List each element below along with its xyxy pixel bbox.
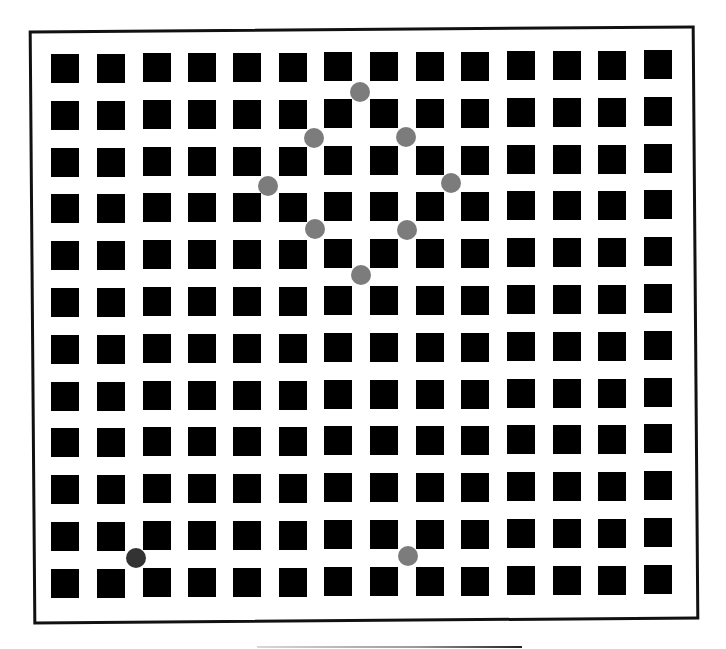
grid-square: [644, 237, 672, 266]
grid-square: [553, 566, 581, 595]
grid-square: [461, 99, 489, 128]
grid-square: [51, 288, 79, 317]
grid-square: [461, 52, 489, 81]
grid-square: [507, 98, 535, 127]
grid-square: [279, 100, 307, 129]
grid-square: [97, 335, 125, 364]
grid-square: [370, 567, 398, 596]
grid-square: [143, 147, 171, 176]
grid-square: [324, 192, 352, 221]
grid-square: [461, 426, 489, 455]
grid-square: [143, 287, 171, 316]
grid-square: [279, 474, 307, 503]
grid-square: [51, 101, 79, 130]
grid-square: [188, 568, 216, 597]
grid-square: [416, 99, 444, 128]
grid-square: [461, 333, 489, 362]
grid-square: [233, 147, 261, 176]
grid-square: [51, 522, 79, 551]
grid-square: [279, 381, 307, 410]
grid-square: [279, 53, 307, 82]
grid-square: [233, 53, 261, 82]
grid-square: [370, 99, 398, 128]
grid-square: [324, 473, 352, 502]
grid-square: [279, 147, 307, 176]
grid-square: [188, 287, 216, 316]
grid-square: [279, 287, 307, 316]
grid-square: [324, 520, 352, 549]
grid-square: [553, 191, 581, 220]
grid-square: [370, 520, 398, 549]
figure-canvas: [0, 0, 726, 649]
grid-square: [143, 474, 171, 503]
circle-gray-reference: [398, 546, 418, 566]
grid-square: [279, 521, 307, 550]
grid-square: [188, 193, 216, 222]
grid-square: [188, 147, 216, 176]
grid-square: [188, 521, 216, 550]
grid-square: [507, 519, 535, 548]
grid-square: [97, 475, 125, 504]
circle-diamond-left: [258, 176, 278, 196]
grid-square: [97, 382, 125, 411]
grid-square: [51, 428, 79, 457]
grid-square: [598, 425, 626, 454]
grid-square: [553, 238, 581, 267]
grid-square: [507, 332, 535, 361]
grid-square: [644, 518, 672, 547]
grid-square: [143, 100, 171, 129]
grid-square: [416, 192, 444, 221]
grid-square: [143, 53, 171, 82]
grid-square: [416, 473, 444, 502]
grid-square: [279, 334, 307, 363]
grid-square: [97, 569, 125, 598]
grid-square: [644, 97, 672, 126]
circle-diamond-lower-left: [305, 219, 325, 239]
grid-square: [461, 567, 489, 596]
grid-square: [324, 52, 352, 81]
grid-square: [598, 98, 626, 127]
grid-square: [553, 332, 581, 361]
grid-square: [233, 240, 261, 269]
grid-square: [143, 427, 171, 456]
grid-square: [324, 567, 352, 596]
grid-square: [370, 426, 398, 455]
grid-square: [598, 145, 626, 174]
grid-square: [553, 472, 581, 501]
grid-square: [188, 100, 216, 129]
grid-square: [553, 145, 581, 174]
grid-square: [97, 522, 125, 551]
grid-square: [97, 241, 125, 270]
grid-square: [97, 288, 125, 317]
grid-square: [370, 192, 398, 221]
grid-square: [461, 286, 489, 315]
circle-diamond-upper-right: [396, 127, 416, 147]
grid-square: [507, 191, 535, 220]
grid-square: [553, 519, 581, 548]
grid-square: [507, 145, 535, 174]
grid-square: [416, 567, 444, 596]
grid-square: [461, 473, 489, 502]
grid-square: [416, 286, 444, 315]
bottom-rule-line: [257, 646, 522, 648]
grid-square: [97, 194, 125, 223]
circle-diamond-bottom: [351, 265, 371, 285]
circle-diamond-right: [441, 173, 461, 193]
grid-square: [370, 286, 398, 315]
grid-square: [143, 381, 171, 410]
grid-square: [507, 472, 535, 501]
grid-square: [97, 148, 125, 177]
grid-square: [51, 148, 79, 177]
grid-square: [233, 100, 261, 129]
grid-square: [143, 334, 171, 363]
circle-dark-reference: [126, 548, 146, 568]
grid-square: [51, 335, 79, 364]
grid-square: [644, 50, 672, 79]
grid-square: [553, 285, 581, 314]
grid-square: [416, 333, 444, 362]
grid-square: [324, 286, 352, 315]
grid-square: [143, 240, 171, 269]
grid-square: [143, 568, 171, 597]
grid-square: [324, 333, 352, 362]
grid-square: [188, 240, 216, 269]
